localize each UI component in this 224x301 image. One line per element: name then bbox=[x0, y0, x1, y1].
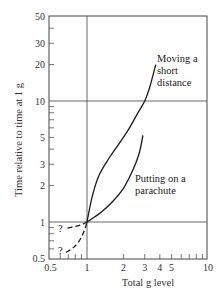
y-axis-title: Time relative to time at 1 g bbox=[13, 82, 24, 197]
y-tick-label: 20 bbox=[35, 59, 45, 70]
y-tick-label: 0.5 bbox=[33, 253, 46, 264]
x-axis-title-text: Total g level bbox=[122, 277, 174, 288]
x-tick-label: 3 bbox=[142, 262, 147, 273]
series-line-0 bbox=[87, 65, 156, 222]
x-tick-label: 10 bbox=[203, 262, 213, 273]
label-moving-2: short bbox=[157, 65, 178, 76]
x-tick-label: 0.5 bbox=[44, 262, 57, 273]
x-tick-label: 4 bbox=[157, 262, 162, 273]
x-tick-label: 5 bbox=[169, 262, 174, 273]
y-tick-label: 30 bbox=[35, 38, 45, 49]
y-tick-label: 50 bbox=[35, 11, 45, 22]
label-question-upper: ? bbox=[58, 223, 63, 234]
y-tick-label: 2 bbox=[40, 180, 45, 191]
series-line-2 bbox=[68, 222, 87, 228]
label-parachute-1: Putting on a bbox=[135, 173, 186, 184]
data-series bbox=[66, 65, 156, 253]
label-moving-3: distance bbox=[157, 77, 192, 88]
label-question-lower: ? bbox=[58, 245, 63, 256]
x-tick-label: 2 bbox=[121, 262, 126, 273]
label-moving-1: Moving a bbox=[157, 53, 198, 64]
y-tick-label: 1 bbox=[40, 217, 45, 228]
x-axis-title: Total g level bbox=[122, 277, 174, 288]
y-tick-label: 3 bbox=[40, 159, 45, 170]
y-axis-title-text: Time relative to time at 1 g bbox=[13, 82, 24, 197]
x-tick-label: 1 bbox=[85, 262, 90, 273]
y-tick-label: 10 bbox=[35, 96, 45, 107]
chart: 0.51235102030500.51234510 Moving a short… bbox=[0, 0, 224, 301]
y-tick-label: 5 bbox=[40, 132, 45, 143]
label-parachute-2: parachute bbox=[135, 185, 176, 196]
